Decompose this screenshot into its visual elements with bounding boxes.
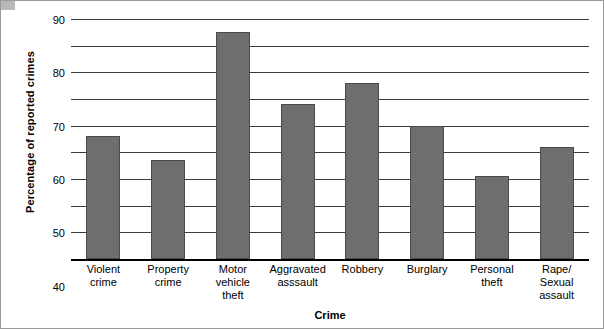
x-axis-line bbox=[71, 259, 589, 261]
y-axis-tick-label: 60 bbox=[53, 174, 65, 186]
x-axis-category-line: Property bbox=[136, 263, 201, 276]
x-axis-category-line: crime bbox=[136, 276, 201, 289]
x-axis-category-line: theft bbox=[460, 276, 525, 289]
bar bbox=[151, 160, 185, 259]
bar-slot bbox=[201, 19, 266, 259]
bar bbox=[540, 147, 574, 259]
bar-series bbox=[71, 19, 589, 259]
bar bbox=[475, 176, 509, 259]
bar-slot bbox=[395, 19, 460, 259]
x-axis-category-label: Aggravatedasssault bbox=[265, 263, 330, 302]
x-axis-category-line: theft bbox=[201, 289, 266, 302]
bar bbox=[86, 136, 120, 259]
bar bbox=[281, 104, 315, 259]
x-axis-category-line: Motor bbox=[201, 263, 266, 276]
y-axis-tick-label: 40 bbox=[53, 281, 65, 293]
x-axis-category-line: Personal bbox=[460, 263, 525, 276]
plot-area: 0102030405060708090 bbox=[71, 19, 589, 259]
x-axis-category-line: assault bbox=[524, 289, 589, 302]
bar-slot bbox=[330, 19, 395, 259]
x-axis-category-line: Robbery bbox=[330, 263, 395, 276]
x-axis-category-line: Rape/ bbox=[524, 263, 589, 276]
x-axis-tick-labels: ViolentcrimePropertycrimeMotorvehiclethe… bbox=[71, 263, 589, 302]
bar-slot bbox=[524, 19, 589, 259]
bar-slot bbox=[460, 19, 525, 259]
x-axis-category-line: crime bbox=[71, 276, 136, 289]
corner-marker bbox=[1, 1, 15, 10]
bar bbox=[410, 126, 444, 259]
bar-slot bbox=[136, 19, 201, 259]
y-axis-tick-label: 50 bbox=[53, 227, 65, 239]
bar bbox=[216, 32, 250, 259]
x-axis-category-label: Personaltheft bbox=[460, 263, 525, 302]
bar bbox=[345, 83, 379, 259]
x-axis-category-label: Propertycrime bbox=[136, 263, 201, 302]
bar-slot bbox=[71, 19, 136, 259]
x-axis-category-line: Violent bbox=[71, 263, 136, 276]
y-axis-tick-label: 80 bbox=[53, 67, 65, 79]
x-axis-category-label: Robbery bbox=[330, 263, 395, 302]
x-axis-category-line: Burglary bbox=[395, 263, 460, 276]
y-axis-tick-label: 70 bbox=[53, 121, 65, 133]
x-axis-category-label: Violentcrime bbox=[71, 263, 136, 302]
bar-slot bbox=[265, 19, 330, 259]
x-axis-category-line: Aggravated bbox=[265, 263, 330, 276]
x-axis-category-label: Burglary bbox=[395, 263, 460, 302]
bar-chart: Percentage of reported crimes 0102030405… bbox=[0, 0, 604, 329]
y-axis-title: Percentage of reported crimes bbox=[24, 17, 36, 247]
x-axis-title: Crime bbox=[71, 309, 589, 321]
x-axis-category-line: vehicle bbox=[201, 276, 266, 289]
x-axis-category-label: Rape/Sexualassault bbox=[524, 263, 589, 302]
x-axis-category-line: asssault bbox=[265, 276, 330, 289]
x-axis-category-line: Sexual bbox=[524, 276, 589, 289]
x-axis-category-label: Motorvehicletheft bbox=[201, 263, 266, 302]
y-axis-tick-label: 90 bbox=[53, 14, 65, 26]
